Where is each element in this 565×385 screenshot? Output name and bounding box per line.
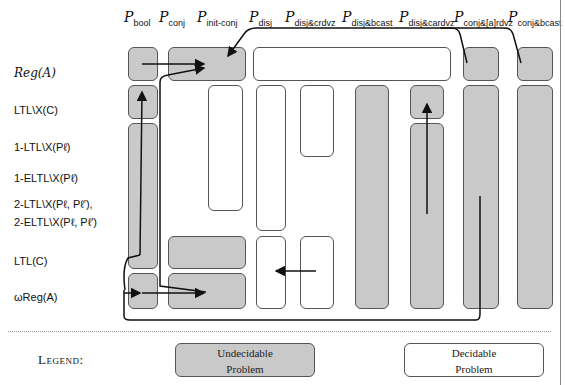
legend-undecidable: Undecidable Problem bbox=[175, 343, 315, 377]
right-border bbox=[560, 0, 561, 385]
arrow-bool-up bbox=[140, 92, 142, 255]
legend-decidable-line1: Decidable bbox=[405, 345, 543, 361]
legend-divider bbox=[8, 331, 551, 332]
legend-decidable: Decidable Problem bbox=[404, 343, 544, 377]
arrow-top-to-conj-a-rdvz bbox=[440, 28, 467, 63]
arrow-bottom-loop bbox=[124, 196, 480, 320]
legend-decidable-line2: Problem bbox=[405, 361, 543, 377]
legend-title: Legend: bbox=[38, 352, 84, 368]
reduction-arrows bbox=[0, 0, 565, 385]
arrow-top-into-conj-reg bbox=[228, 28, 256, 56]
legend-undecidable-line2: Problem bbox=[176, 361, 314, 377]
arrow-top-to-conj-bcast bbox=[256, 28, 521, 63]
arrow-loop-init-conj bbox=[160, 68, 206, 292]
legend-undecidable-line1: Undecidable bbox=[176, 345, 314, 361]
arrow-bool-curve bbox=[124, 255, 140, 290]
